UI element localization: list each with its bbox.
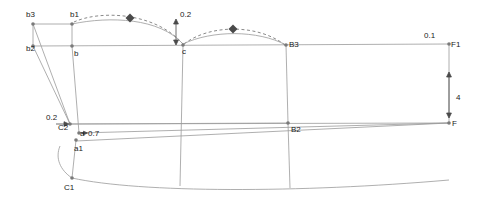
point-F [447,121,451,125]
point-C2 [68,122,72,126]
label-0-1: 0.1 [424,32,435,40]
line-b3-to-C2 [33,24,70,124]
diagram-svg [0,0,486,199]
line-b-vertical [72,46,79,133]
line-hem-bottom [72,178,449,190]
dimension-arrows [56,19,451,135]
label-c: c [182,48,186,56]
line-b2-to-F1 [33,44,449,46]
label-C2: C2 [58,124,68,132]
line-a-to-right [79,123,449,133]
line-B3-vertical [286,45,288,123]
pattern-diagram-canvas: b3 b1 0.2 b2 b c B3 0.1 F1 4 F 0.2 C2 a … [0,0,486,199]
label-C1: C1 [64,184,74,192]
line-B2-to-hem [288,123,290,188]
point-b3 [31,22,35,26]
label-B3: B3 [289,41,299,49]
label-b1: b1 [70,11,79,19]
label-4: 4 [456,94,460,102]
point-a1 [74,138,78,142]
style-line-curves [72,20,286,45]
diamond-marker-right [229,25,238,34]
line-c-vertical [180,46,183,186]
label-a1: a1 [74,145,83,153]
point-b1 [70,22,74,26]
label-a: a [80,130,84,138]
line-a1-to-right [76,123,449,141]
label-b2: b2 [26,45,35,53]
point-B2 [286,121,290,125]
label-B2: B2 [291,126,301,134]
label-0-2-top: 0.2 [180,11,191,19]
point-b [70,44,74,48]
label-b-lower: b [74,50,78,58]
label-0-7: 0.7 [88,130,99,138]
label-b3: b3 [26,11,35,19]
point-B3 [284,43,288,47]
curve-b1-c-B3 [72,20,286,45]
construction-lines [33,24,449,190]
label-F: F [452,120,457,128]
label-0-2-left: 0.2 [46,114,57,122]
point-C1 [70,176,74,180]
label-F1: F1 [451,41,460,49]
line-C1-curve [58,146,72,178]
